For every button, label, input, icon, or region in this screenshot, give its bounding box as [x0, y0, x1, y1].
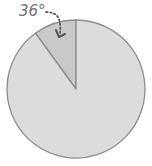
pie-slice-remaining-sector	[7, 20, 145, 158]
pie-slices	[7, 20, 145, 158]
angle-label: 36°	[19, 2, 46, 20]
pie-diagram: 36°	[0, 0, 152, 166]
